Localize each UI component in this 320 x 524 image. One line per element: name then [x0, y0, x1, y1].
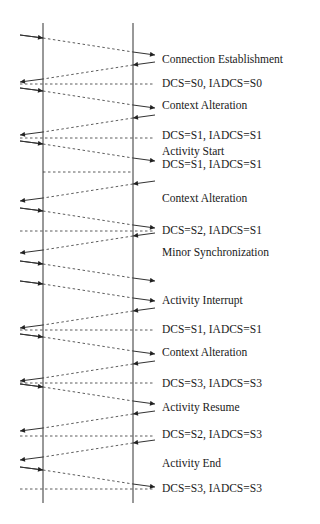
message-arrow: [20, 281, 155, 301]
message-arrow: [20, 233, 155, 253]
event-label: Minor Synchronization: [162, 247, 269, 259]
message-arrow: [20, 35, 155, 55]
event-label: Connection Establishment: [162, 54, 283, 66]
event-label: Context Alteration: [162, 193, 247, 205]
event-label: DCS=S1, IADCS=S1: [162, 159, 262, 171]
message-arrow: [20, 115, 155, 135]
event-label: DCS=S0, IADCS=S0: [162, 78, 262, 90]
message-arrow: [20, 62, 155, 82]
event-label: DCS=S3, IADCS=S3: [162, 483, 262, 495]
message-arrow: [20, 88, 155, 108]
message-arrow: [20, 181, 155, 201]
message-arrow: [20, 261, 155, 281]
message-arrow: [20, 334, 155, 354]
event-label: Context Alteration: [162, 347, 247, 359]
message-arrow: [20, 308, 155, 328]
lifelines: [43, 23, 133, 503]
message-arrow: [20, 440, 155, 460]
message-arrows: [20, 35, 155, 487]
event-label: Activity Interrupt: [162, 295, 243, 307]
message-arrow: [20, 361, 155, 381]
message-arrow: [20, 467, 155, 487]
event-label: DCS=S1, IADCS=S1: [162, 130, 262, 142]
message-arrow: [20, 384, 155, 404]
event-label: DCS=S2, IADCS=S3: [162, 429, 262, 441]
event-label: DCS=S1, IADCS=S1: [162, 324, 262, 336]
event-label: DCS=S3, IADCS=S3: [162, 378, 262, 390]
event-label: Activity End: [162, 458, 221, 470]
event-label: Context Alteration: [162, 100, 247, 112]
event-label: Activity Start: [162, 146, 224, 158]
message-arrow: [20, 208, 155, 228]
message-arrow: [20, 141, 155, 161]
event-label: DCS=S2, IADCS=S1: [162, 225, 262, 237]
event-label: Activity Resume: [162, 402, 240, 414]
message-arrow: [20, 411, 155, 431]
